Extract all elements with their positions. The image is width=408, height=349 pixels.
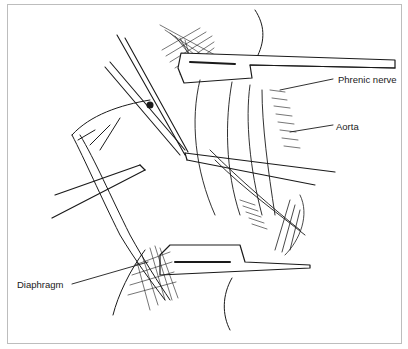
lower-right-tissue — [275, 195, 304, 255]
aorta-leader — [290, 125, 333, 132]
label-aorta: Aorta — [336, 122, 359, 132]
lower-retractor — [160, 245, 310, 275]
label-phrenic-nerve: Phrenic nerve — [338, 75, 397, 85]
scissors-instrument — [105, 35, 188, 155]
surgical-illustration — [0, 0, 408, 349]
diaphragm-leader — [72, 262, 148, 284]
label-diaphragm: Diaphragm — [17, 280, 63, 290]
left-probe — [52, 165, 145, 218]
phrenic-leader — [280, 79, 333, 90]
central-structures — [195, 80, 305, 235]
middle-retractor — [185, 153, 335, 185]
